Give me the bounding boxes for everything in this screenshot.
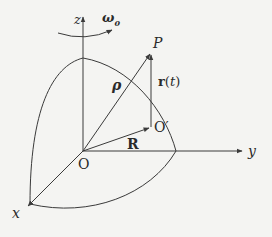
- x-axis: [28, 151, 83, 206]
- diagram-canvas: [0, 0, 272, 237]
- octant-curve-xy: [30, 151, 176, 208]
- z-axis-label: z: [74, 13, 81, 26]
- moving-origin-label: O′: [154, 120, 169, 134]
- octant-curve-zx: [30, 58, 83, 204]
- R-vector: [83, 128, 149, 151]
- origin-label: O: [78, 157, 89, 171]
- rotating-frame-diagram: z ω0 P ρ r(t) O′ R O y x: [0, 0, 272, 237]
- omega-subscript: 0: [114, 18, 120, 28]
- rotation-arrow: [58, 30, 112, 37]
- R-vector-label: R: [127, 137, 139, 151]
- y-axis-label: y: [248, 144, 256, 158]
- rho-label: ρ: [112, 78, 121, 92]
- r-vector-label: r(t): [158, 75, 180, 88]
- omega-label: ω0: [102, 11, 120, 27]
- rho-vector: [83, 54, 150, 151]
- point-P-label: P: [153, 36, 162, 50]
- r-arg: (t): [165, 74, 180, 89]
- omega-symbol: ω: [102, 10, 114, 25]
- x-axis-label: x: [12, 206, 20, 220]
